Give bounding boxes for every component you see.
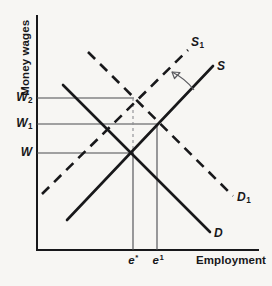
y-tick-sub-w1: 1	[28, 122, 33, 131]
curve-label-s: S	[217, 60, 225, 72]
x-tick-label-e-star: e*	[122, 255, 144, 267]
x-tick-sup-e-star: *	[135, 253, 138, 262]
curve-label-d-base: D	[214, 226, 223, 240]
curve-label-d: D	[214, 227, 223, 239]
shift-arrow-icon	[172, 72, 194, 90]
curve-label-d1-base: D	[237, 190, 246, 204]
x-tick-sup-e-1: 1	[160, 253, 164, 262]
x-axis-title: Employment	[196, 255, 266, 267]
curve-s1	[42, 50, 188, 194]
curve-group	[42, 50, 233, 232]
y-tick-base-w2: W	[16, 90, 27, 104]
curve-label-d1: D1	[237, 191, 250, 203]
y-tick-sub-w2: 2	[28, 96, 33, 105]
curve-s	[67, 66, 213, 220]
curve-d	[63, 85, 210, 232]
curve-label-s-base: S	[217, 59, 225, 73]
economics-diagram: Money wages Employment W2 W1 W e* e1 S1 …	[0, 0, 272, 286]
curve-label-d1-sub: 1	[246, 196, 251, 205]
y-tick-base-w: W	[21, 145, 32, 159]
y-tick-label-w: W	[6, 146, 32, 158]
x-tick-base-e-star: e	[128, 254, 134, 266]
x-tick-base-e-1: e	[153, 254, 159, 266]
y-tick-label-w2: W2	[6, 91, 32, 103]
curve-label-s1-base: S	[191, 35, 199, 49]
y-tick-label-w1: W1	[6, 117, 32, 129]
curve-label-s1-sub: 1	[200, 41, 205, 50]
y-tick-base-w1: W	[16, 116, 27, 130]
curve-label-s1: S1	[191, 36, 204, 48]
x-tick-label-e-1: e1	[147, 255, 169, 267]
diagram-canvas	[0, 0, 272, 286]
